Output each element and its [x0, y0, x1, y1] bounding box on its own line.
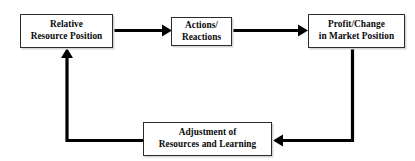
node-adjustment-resources: Adjustment of Resources and Learning [143, 122, 272, 156]
node-label-profit-change: Profit/Change in Market Position [316, 19, 397, 43]
node-relative-resource-position: Relative Resource Position [20, 14, 113, 48]
node-label-actions-reactions: Actions/ Reactions [179, 20, 224, 44]
arrow-adjustment-to-resource [61, 48, 143, 141]
node-profit-change: Profit/Change in Market Position [308, 14, 405, 48]
arrow-actions-to-profit [232, 25, 308, 37]
diagram-canvas: Relative Resource Position Actions/ Reac… [0, 0, 415, 161]
arrow-profit-to-adjustment [273, 48, 353, 147]
node-actions-reactions: Actions/ Reactions [171, 17, 232, 46]
arrow-resource-to-actions [113, 25, 172, 37]
node-label-relative-resource-position: Relative Resource Position [28, 19, 106, 43]
node-label-adjustment-resources: Adjustment of Resources and Learning [156, 127, 260, 151]
